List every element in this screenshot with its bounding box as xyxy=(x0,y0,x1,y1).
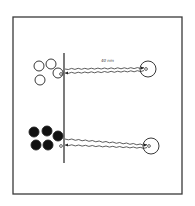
bottom-target-bead xyxy=(148,145,151,148)
top-anchor-bead xyxy=(60,73,63,76)
bottom-anchor-bead xyxy=(60,145,63,148)
top-tether-in xyxy=(65,71,144,74)
top-target-circle xyxy=(140,61,156,77)
bottom-tether-in xyxy=(65,145,147,149)
top-particle-1 xyxy=(46,59,56,69)
scale-label: 40 nm xyxy=(101,58,114,63)
bottom-target-circle xyxy=(143,138,159,154)
top-target-bead xyxy=(145,68,148,71)
bottom-arrow-left-icon xyxy=(65,144,68,147)
frame-border xyxy=(13,17,182,194)
bottom-particle-1 xyxy=(42,126,52,136)
top-particle-0 xyxy=(34,61,44,71)
bottom-particle-4 xyxy=(43,140,53,150)
top-tether-out xyxy=(65,68,144,70)
bottom-particle-3 xyxy=(31,140,41,150)
bottom-tether-out xyxy=(65,139,147,145)
diagram-canvas xyxy=(0,0,195,206)
top-arrow-left-icon xyxy=(65,72,68,75)
bottom-particle-2 xyxy=(53,131,63,141)
bottom-particle-0 xyxy=(29,127,39,137)
top-particle-3 xyxy=(35,75,45,85)
